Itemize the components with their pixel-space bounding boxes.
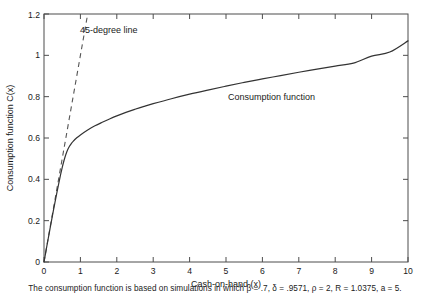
- consumption-function-chart: 0 1 2 3 4 5 6 7 8 9 10 0 0.2 0.4 0.6 0.8…: [0, 0, 430, 305]
- figure-container: 0 1 2 3 4 5 6 7 8 9 10 0 0.2 0.4 0.6 0.8…: [0, 0, 430, 305]
- y-tick-label: 0: [35, 257, 40, 267]
- annotation-45-degree-line: 45-degree line: [80, 25, 138, 35]
- plot-frame: [44, 14, 408, 262]
- x-tick-labels: 0 1 2 3 4 5 6 7 8 9 10: [42, 266, 413, 276]
- x-tick-label: 8: [333, 266, 338, 276]
- x-tick-label: 3: [151, 266, 156, 276]
- y-tick-label: 0.2: [28, 216, 40, 226]
- y-tick-label: 0.4: [28, 174, 40, 184]
- x-tick-label: 10: [403, 266, 413, 276]
- x-tick-label: 7: [296, 266, 301, 276]
- y-tick-label: 0.6: [28, 133, 40, 143]
- y-axis-title: Consumption function C(x): [5, 85, 15, 192]
- x-tick-label: 0: [42, 266, 47, 276]
- figure-caption: The consumption function is based on sim…: [0, 284, 430, 293]
- y-tick-label: 0.8: [28, 92, 40, 102]
- x-tick-label: 2: [114, 266, 119, 276]
- x-tick-label: 6: [260, 266, 265, 276]
- y-tick-label: 1.2: [28, 10, 40, 20]
- y-tick-labels: 0 0.2 0.4 0.6 0.8 1 1.2: [28, 10, 40, 268]
- annotation-consumption-function: Consumption function: [228, 92, 315, 102]
- x-tick-label: 1: [78, 266, 83, 276]
- x-tick-label: 4: [187, 266, 192, 276]
- y-tick-label: 1: [35, 50, 40, 60]
- x-tick-label: 5: [224, 266, 229, 276]
- x-tick-label: 9: [369, 266, 374, 276]
